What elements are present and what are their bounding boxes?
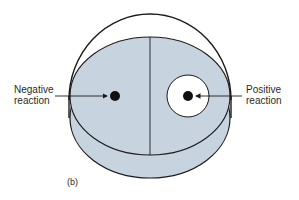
positive-label-line2: reaction bbox=[246, 95, 282, 106]
negative-reaction-label: Negative reaction bbox=[14, 84, 53, 106]
positive-label-line1: Positive bbox=[246, 84, 282, 95]
positive-reaction-label: Positive reaction bbox=[246, 84, 282, 106]
figure-caption: (b) bbox=[67, 177, 78, 188]
negative-label-line2: reaction bbox=[14, 95, 53, 106]
negative-label-line1: Negative bbox=[14, 84, 53, 95]
positive-colony-dot bbox=[183, 91, 193, 101]
negative-colony-dot bbox=[110, 91, 120, 101]
